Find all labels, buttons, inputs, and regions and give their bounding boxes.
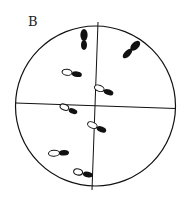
- arena-diagram: [0, 0, 186, 204]
- footprint-icon: [80, 29, 87, 50]
- footprint-icon: [48, 149, 69, 156]
- footprint-icon: [93, 84, 114, 97]
- footprint-icon: [86, 120, 107, 133]
- footprint-icon: [62, 69, 83, 78]
- footprint-icon: [73, 168, 93, 178]
- footprint-icon: [121, 39, 142, 60]
